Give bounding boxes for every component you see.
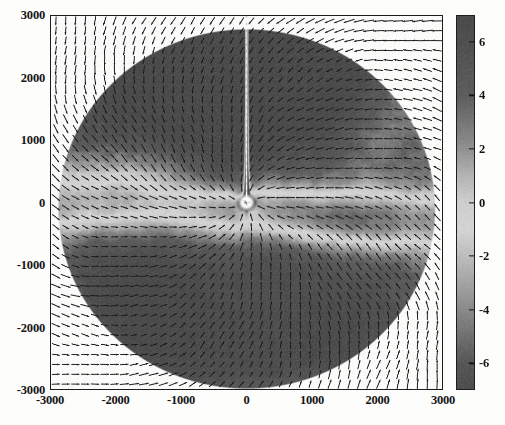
x-tick-label: -2000 [101,393,129,408]
colorbar-tick-label: 4 [479,88,485,103]
colorbar-tick-label: -2 [479,249,489,264]
colorbar-tick-label: 6 [479,34,485,49]
x-tick-label: -1000 [167,393,195,408]
colorbar-tick-mark [469,363,474,364]
colorbar-tick-mark [469,41,474,42]
colorbar-tick-mark [469,255,474,256]
x-tick-label: -3000 [36,393,64,408]
x-tick-label: 3000 [431,393,455,408]
figure-container: -3000-2000-10000100020003000 -3000-2000-… [0,0,505,425]
y-tick-label: 0 [0,195,45,210]
colorbar-tick-label: -6 [479,356,489,371]
y-tick-label: -1000 [0,258,45,273]
colorbar-tick-mark [469,95,474,96]
colorbar-tick-mark [469,202,474,203]
plot-area[interactable] [50,15,443,390]
colorbar-tick-label: -4 [479,302,489,317]
y-tick-label: 3000 [0,8,45,23]
colorbar-tick-label: 2 [479,141,485,156]
colorbar-tick-label: 0 [479,195,485,210]
y-tick-label: 2000 [0,70,45,85]
colorbar-tick-mark [469,148,474,149]
x-tick-label: 1000 [300,393,324,408]
y-tick-label: -2000 [0,320,45,335]
y-tick-label: 1000 [0,133,45,148]
x-tick-label: 0 [243,393,249,408]
x-tick-label: 2000 [365,393,389,408]
colorbar-tick-mark [469,309,474,310]
vector-field-heatmap-canvas [51,16,442,389]
